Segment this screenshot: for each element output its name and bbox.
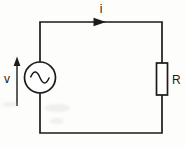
wire-bottom: [40, 93, 162, 133]
wire-top: [40, 22, 162, 63]
resistor-label: R: [172, 73, 181, 87]
voltage-arrowhead-icon: [14, 57, 21, 67]
circuit-schematic-svg: i v R: [0, 0, 186, 148]
scan-noise: [50, 118, 64, 124]
current-arrow-icon: [94, 18, 107, 26]
circuit-diagram: i v R: [0, 0, 186, 148]
circuit-wires: [40, 22, 162, 133]
current-label: i: [100, 2, 103, 16]
resistor-icon: [157, 63, 168, 95]
scan-noise: [2, 102, 18, 107]
voltage-label: v: [4, 72, 10, 86]
scan-noise: [44, 104, 70, 112]
